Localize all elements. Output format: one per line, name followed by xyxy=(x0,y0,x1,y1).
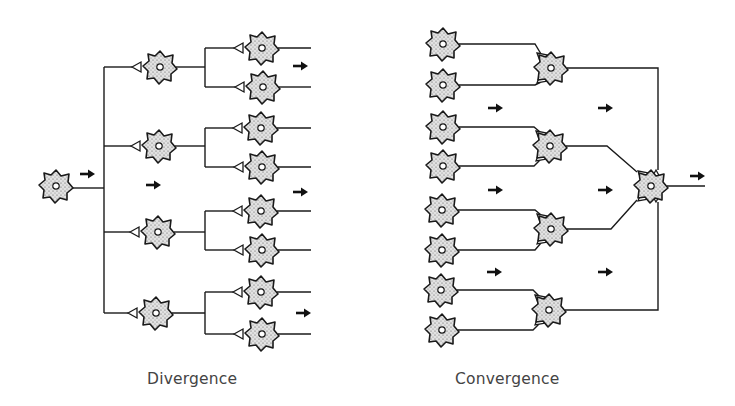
arrow-right-icon xyxy=(598,186,613,195)
arrow-right-icon xyxy=(487,268,502,277)
synapse-icon xyxy=(233,206,242,216)
synapse-icon xyxy=(234,43,243,53)
neuron-icon xyxy=(532,294,566,327)
axon-line xyxy=(459,82,541,85)
axon-line xyxy=(459,160,540,166)
axon-line xyxy=(459,44,541,54)
axon-line xyxy=(458,243,541,250)
neuron-icon xyxy=(425,194,459,227)
neuron-icon xyxy=(139,297,173,330)
neuron-icon xyxy=(534,52,568,85)
arrow-right-icon xyxy=(488,186,503,195)
axon-line xyxy=(458,324,539,330)
axon-line xyxy=(565,202,658,310)
arrow-right-icon xyxy=(80,170,95,179)
neuron-icon xyxy=(142,130,176,163)
neuron-icon xyxy=(245,151,279,184)
neuron-icon xyxy=(426,69,460,102)
synapse-icon xyxy=(131,141,140,151)
neuron-icon xyxy=(141,216,175,249)
arrow-right-icon xyxy=(598,104,613,113)
arrow-right-icon xyxy=(146,181,161,190)
neuron-icon xyxy=(143,51,177,84)
synapse-icon xyxy=(234,329,243,339)
arrow-right-icon xyxy=(293,62,308,71)
neuron-icon xyxy=(425,234,459,267)
axon-line xyxy=(459,127,540,132)
neuron-icon xyxy=(634,170,668,203)
neuron-icon xyxy=(534,213,568,246)
neuron-icon xyxy=(245,234,279,267)
neuron-icon xyxy=(244,195,278,228)
axon-line xyxy=(567,200,637,229)
neuron-icon xyxy=(425,314,459,347)
neural-circuits-diagram xyxy=(0,0,735,406)
synapse-icon xyxy=(234,162,243,172)
divergence-label: Divergence xyxy=(147,370,237,388)
neuron-icon xyxy=(244,112,278,145)
axon-line xyxy=(457,290,539,296)
convergence-diagram xyxy=(424,28,705,347)
axon-line xyxy=(567,68,658,170)
synapse-icon xyxy=(128,308,137,318)
arrow-right-icon xyxy=(293,188,308,197)
arrow-right-icon xyxy=(690,172,705,181)
neuron-icon xyxy=(533,130,567,163)
synapse-icon xyxy=(233,287,242,297)
synapse-icon xyxy=(234,245,243,255)
neuron-icon xyxy=(246,71,280,104)
arrow-right-icon xyxy=(598,268,613,277)
synapse-icon xyxy=(233,123,242,133)
axon-line xyxy=(566,146,637,172)
synapse-icon xyxy=(235,82,244,92)
neuron-icon xyxy=(244,276,278,309)
neuron-icon xyxy=(424,274,458,307)
synapse-icon xyxy=(130,227,139,237)
arrow-right-icon xyxy=(296,309,311,318)
neuron-icon xyxy=(426,150,460,183)
neuron-icon xyxy=(426,111,460,144)
neuron-icon xyxy=(245,32,279,65)
convergence-label: Convergence xyxy=(455,370,559,388)
axon-line xyxy=(458,210,541,215)
divergence-diagram xyxy=(39,32,311,351)
arrow-right-icon xyxy=(488,104,503,113)
neuron-icon xyxy=(426,28,460,61)
neuron-icon xyxy=(39,170,73,203)
synapse-icon xyxy=(132,62,141,72)
neuron-icon xyxy=(245,318,279,351)
